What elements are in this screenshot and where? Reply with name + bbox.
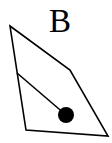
dot-marker <box>58 107 74 123</box>
inner-line <box>17 73 66 115</box>
diagram-canvas <box>0 0 112 143</box>
diagram-figure: B <box>0 0 112 143</box>
quadrilateral-shape <box>10 26 108 136</box>
